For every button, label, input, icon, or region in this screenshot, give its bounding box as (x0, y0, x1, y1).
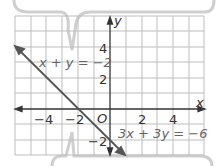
equation-label-2: 3x + 3y = −6 (118, 127, 207, 140)
y-tick-4: 4 (99, 42, 107, 55)
x-tick-2: 2 (138, 113, 146, 126)
y-tick-neg2: −2 (88, 135, 107, 148)
y-axis-down-arrow-icon (108, 148, 113, 155)
x-tick-4: 4 (169, 113, 177, 126)
coordinate-graph: y x O −4 −2 2 4 4 2 −2 x + y = −2 3x + 3… (0, 0, 217, 166)
x-axis-label: x (196, 96, 204, 109)
x-tick-neg2: −2 (65, 113, 84, 126)
y-axis-label: y (114, 14, 122, 27)
graph-canvas (0, 0, 217, 166)
y-axis-up-arrow-icon (108, 17, 113, 24)
equation-label-1: x + y = −2 (39, 56, 112, 69)
x-tick-neg4: −4 (34, 113, 53, 126)
origin-label: O (97, 112, 107, 125)
x-axis-left-arrow-icon (15, 107, 22, 112)
y-tick-2: 2 (99, 73, 107, 86)
